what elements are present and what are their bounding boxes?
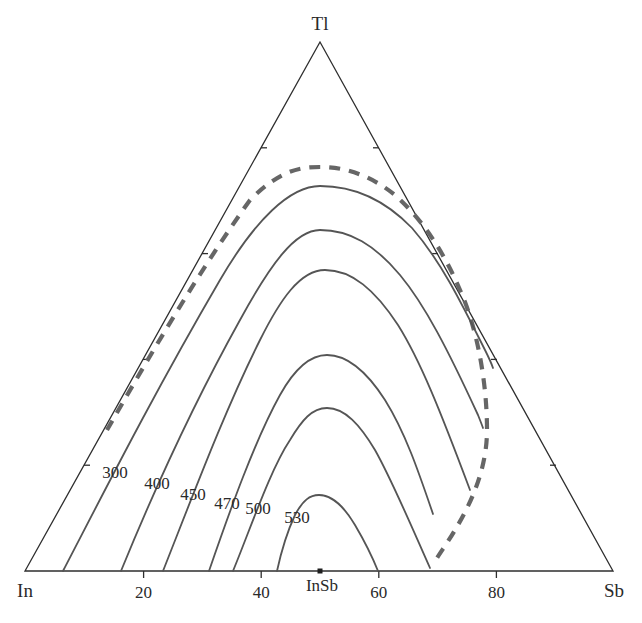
tick-label-80: 80 bbox=[488, 583, 505, 602]
triangle-frame bbox=[25, 42, 613, 571]
tick-label-60: 60 bbox=[370, 583, 387, 602]
isotherm-300-curve bbox=[63, 186, 493, 571]
isotherm-500-curve bbox=[233, 408, 430, 571]
miscibility-gap-dashed-curve bbox=[107, 167, 487, 558]
vertex-label-top: Tl bbox=[312, 13, 329, 34]
isotherm-450-curve bbox=[163, 270, 470, 571]
isotherm-label-400: 400 bbox=[144, 474, 170, 493]
vertex-label-left: In bbox=[17, 580, 33, 601]
isotherm-label-450: 450 bbox=[180, 485, 206, 504]
ternary-diagram: Tl In Sb 20 40 60 80 InSb 300 400 450 47… bbox=[0, 0, 642, 623]
isotherm-label-530: 530 bbox=[284, 508, 310, 527]
compound-label-insb: InSb bbox=[306, 576, 338, 595]
isotherm-470-curve bbox=[209, 355, 433, 571]
tick-label-20: 20 bbox=[135, 583, 152, 602]
isotherms bbox=[63, 186, 493, 571]
isotherm-530-curve bbox=[277, 495, 378, 571]
isotherm-label-470: 470 bbox=[214, 494, 240, 513]
isotherm-label-300: 300 bbox=[102, 463, 128, 482]
insb-compound-marker bbox=[318, 569, 323, 574]
isotherm-label-500: 500 bbox=[245, 499, 271, 518]
tick-label-40: 40 bbox=[253, 583, 270, 602]
vertex-label-right: Sb bbox=[604, 580, 624, 601]
left-side-ticks bbox=[84, 148, 267, 465]
